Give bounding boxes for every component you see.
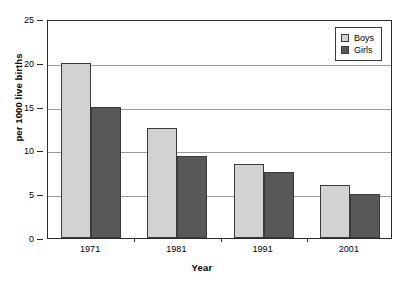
y-tick-label: 25	[24, 16, 34, 25]
y-tick-label: 5	[29, 191, 34, 200]
bar-boys-1981	[147, 128, 177, 238]
y-tick-mark	[37, 20, 43, 21]
bar-chart-figure: 0510152025 per 1000 live births Boys Gir…	[0, 0, 404, 284]
bar-group	[61, 21, 121, 238]
plot-area: Boys Girls	[47, 20, 392, 239]
bar-girls-2001	[350, 194, 380, 238]
y-tick-mark	[37, 239, 43, 240]
bar-group	[234, 21, 294, 238]
x-axis-title: Year	[0, 262, 404, 273]
x-tick-label: 1971	[80, 245, 100, 254]
legend-label-boys: Boys	[354, 33, 374, 43]
legend-label-girls: Girls	[354, 45, 373, 55]
y-tick-mark	[37, 151, 43, 152]
bar-boys-1991	[234, 164, 264, 238]
bar-boys-1971	[61, 63, 91, 238]
x-tick-mark	[307, 238, 308, 242]
bar-group	[147, 21, 207, 238]
y-tick-mark	[37, 108, 43, 109]
y-tick-label: 20	[24, 59, 34, 68]
legend-swatch-girls	[341, 46, 349, 54]
y-tick-mark	[37, 64, 43, 65]
bar-girls-1991	[264, 172, 294, 238]
legend-item-boys: Boys	[341, 32, 374, 44]
x-tick-label: 1981	[166, 245, 186, 254]
x-tick-label: 1991	[253, 245, 273, 254]
bar-boys-2001	[320, 185, 350, 238]
legend-item-girls: Girls	[341, 44, 374, 56]
y-tick-mark	[37, 195, 43, 196]
y-tick-label: 10	[24, 147, 34, 156]
y-axis: 0510152025	[0, 0, 47, 284]
legend-swatch-boys	[341, 34, 349, 42]
legend: Boys Girls	[335, 27, 382, 61]
y-tick-label: 15	[24, 103, 34, 112]
y-tick-label: 0	[29, 235, 34, 244]
x-tick-mark	[134, 238, 135, 242]
x-tick-mark	[221, 238, 222, 242]
y-axis-title: per 1000 live births	[13, 18, 24, 178]
bar-girls-1981	[177, 156, 207, 238]
bar-girls-1971	[91, 107, 121, 238]
x-tick-label: 2001	[339, 245, 359, 254]
